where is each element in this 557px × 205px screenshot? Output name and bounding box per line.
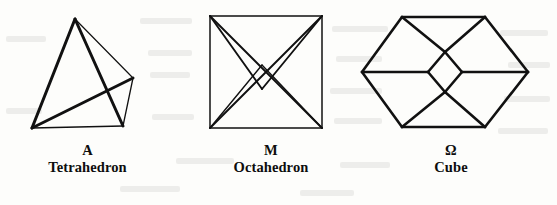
edge-top_right-right <box>485 17 528 72</box>
edge-center_right-center_bottom <box>445 72 462 92</box>
edge-center_bottom-center_left <box>428 72 445 92</box>
edge-bottom_right-right <box>123 78 133 126</box>
edge-apex-bottom_right <box>75 19 123 126</box>
edge-bottom_left-inner_upper <box>210 65 262 128</box>
figure-octahedron <box>210 16 322 128</box>
edge-left-top_left <box>362 17 402 72</box>
edge-top_left-inner_lower <box>210 16 262 89</box>
caption-label-octahedron: Octahedron <box>196 159 346 175</box>
edge-center_bottom-bottom_right <box>445 92 485 127</box>
caption-octahedron: M Octahedron <box>196 142 346 175</box>
edge-bottom_left-bottom_right <box>32 126 123 128</box>
figure-plate: A Tetrahedron M Octahedron Ω Cube <box>0 0 557 205</box>
caption-cube: Ω Cube <box>376 142 526 175</box>
caption-symbol-cube: Ω <box>376 142 526 158</box>
edge-apex-right <box>75 19 133 78</box>
caption-symbol-tetrahedron: A <box>10 142 165 158</box>
caption-label-tetrahedron: Tetrahedron <box>10 159 165 175</box>
edge-bottom_left-left <box>362 72 402 127</box>
edge-bottom_left-center_bottom <box>402 92 445 127</box>
edge-apex-bottom_left <box>32 19 75 128</box>
edge-top_left-center_top <box>402 17 445 52</box>
edge-center_left-center_top <box>428 52 445 72</box>
edge-right-bottom_right <box>485 72 528 127</box>
edge-center_top-top_right <box>445 17 485 52</box>
edge-bottom_left-right <box>32 78 133 128</box>
figure-cube <box>362 17 528 127</box>
edge-center_top-center_right <box>445 52 462 72</box>
caption-tetrahedron: A Tetrahedron <box>10 142 165 175</box>
caption-symbol-octahedron: M <box>196 142 346 158</box>
caption-label-cube: Cube <box>376 159 526 175</box>
figure-tetrahedron <box>32 19 133 128</box>
